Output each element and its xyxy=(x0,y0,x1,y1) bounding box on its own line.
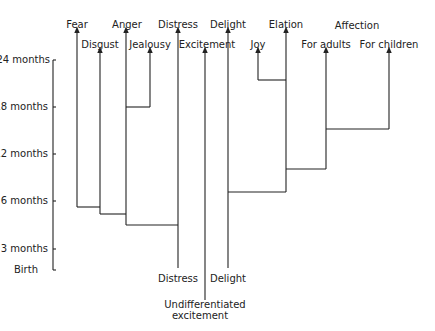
label-joy: Joy xyxy=(250,39,266,50)
label-for-children: For children xyxy=(360,39,419,50)
tick-label-24-months: 24 months xyxy=(0,54,50,65)
tick-label-6-months: 6 months xyxy=(1,195,48,206)
tick-label-birth: Birth xyxy=(14,264,38,275)
label-undifferentiated-line2: excitement xyxy=(172,310,228,321)
label-disgust: Disgust xyxy=(81,39,119,50)
label-anger: Anger xyxy=(112,19,143,30)
time-axis: 24 months 18 months 12 months 6 months 3… xyxy=(0,54,56,275)
label-jealousy: Jealousy xyxy=(128,39,171,50)
label-distress-origin: Distress xyxy=(158,273,198,284)
label-distress: Distress xyxy=(158,19,198,30)
origin-labels: Distress Delight Undifferentiated excite… xyxy=(158,273,246,321)
label-undifferentiated-line1: Undifferentiated xyxy=(164,299,245,310)
tick-label-12-months: 12 months xyxy=(0,148,48,159)
label-fear: Fear xyxy=(66,19,88,30)
emotion-labels: Fear Disgust Anger Jealousy Distress Exc… xyxy=(66,19,418,50)
label-elation: Elation xyxy=(269,19,303,30)
branch-lines xyxy=(77,32,389,300)
label-delight-origin: Delight xyxy=(210,273,246,284)
label-excitement: Excitement xyxy=(179,39,236,50)
label-affection: Affection xyxy=(335,20,380,31)
label-for-adults: For adults xyxy=(301,39,351,50)
tick-label-3-months: 3 months xyxy=(1,243,48,254)
label-delight: Delight xyxy=(210,19,246,30)
emotion-development-diagram: 24 months 18 months 12 months 6 months 3… xyxy=(0,0,435,331)
tick-label-18-months: 18 months xyxy=(0,101,48,112)
